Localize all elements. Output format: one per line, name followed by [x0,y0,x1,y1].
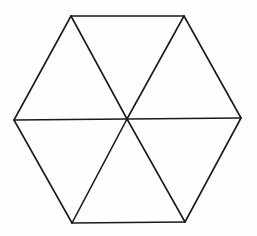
hexagon-edge [184,16,241,118]
hexagon-edge [14,120,72,223]
hexagon-edge [14,16,71,120]
hexagon-edge [185,118,241,222]
hexagon-edge [72,222,185,223]
center-spoke [127,118,241,119]
center-spoke [71,16,127,119]
center-spoke [14,119,127,120]
center-spoke [72,119,127,223]
hexagon-spokes [14,16,241,223]
hexagon-diagram [0,0,257,236]
diagram-canvas [0,0,257,236]
center-spoke [127,119,185,222]
center-spoke [127,16,184,119]
